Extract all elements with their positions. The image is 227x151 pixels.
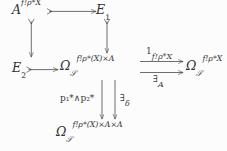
node-E1: E1	[96, 4, 110, 17]
node-E2-index: 2	[21, 71, 26, 80]
node-A-exponent: f!ρ*X	[21, 0, 41, 7]
node-E1-base: E	[96, 2, 105, 17]
node-Omega-X: Ω𝒮f!ρ*X	[186, 60, 222, 73]
node-Omega-XA-base: Ω	[60, 58, 70, 73]
node-Omega-XA-exponent: f!ρ*(X)×A	[76, 54, 114, 63]
node-Omega-X-exponent: f!ρ*X	[202, 54, 222, 63]
label-exists-A-index: A	[158, 80, 164, 89]
node-Omega-X-times-A-times-A: Ω𝒮f!ρ*(X)×A×A	[56, 126, 123, 139]
label-identity-f-rho-X: 1f!ρ*X	[146, 47, 172, 56]
node-Omega-XAA-base: Ω	[56, 124, 66, 139]
edge-A-to-E2	[29, 19, 35, 57]
node-A-base: A	[12, 2, 21, 17]
node-E1-index: 1	[105, 13, 110, 22]
label-exists-A: ∃A	[153, 75, 164, 84]
label-exists-delta: ∃δ	[120, 94, 130, 103]
node-Omega-XAA-exponent: f!ρ*(X)×A×A	[72, 120, 122, 129]
node-Omega-XA-site: 𝒮	[70, 69, 76, 78]
node-A-upper-f-rho-X: Af!ρ*X	[12, 4, 41, 17]
label-meet-of-pullbacks: p₁*∧p₂*	[60, 94, 94, 103]
label-identity-base: 1	[146, 46, 152, 56]
edge-E1-to-OmegaXA	[104, 19, 110, 53]
edge-E2-to-OmegaXA	[27, 67, 59, 73]
node-E2-base: E	[12, 60, 21, 75]
node-Omega-X-base: Ω	[186, 58, 196, 73]
node-Omega-X-times-A: Ω𝒮f!ρ*(X)×A	[60, 60, 114, 73]
node-Omega-X-site: 𝒮	[196, 69, 202, 78]
node-E2: E2	[12, 62, 26, 75]
commutative-diagram: E1 --> Omega^{...xA} -->	[0, 0, 227, 151]
node-Omega-XAA-site: 𝒮	[66, 135, 72, 144]
edge-A-to-E1	[47, 9, 96, 15]
label-exists-delta-index: δ	[125, 99, 130, 108]
label-identity-index: f!ρ*X	[152, 52, 173, 61]
